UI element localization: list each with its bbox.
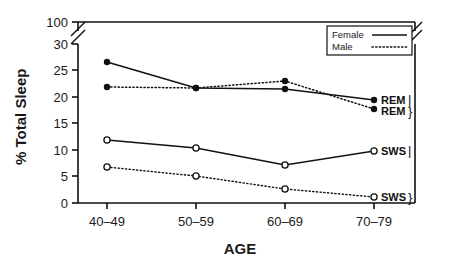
y-tick-label-5: 5 [61,169,68,184]
x-axis-title: AGE [224,240,257,257]
y-axis-title: % Total Sleep [12,69,29,165]
annotation-sws-male: SWS [381,191,406,203]
y-axis-ticks [72,22,78,203]
chart-canvas: 100 30 25 20 15 10 5 0 40–49 50–59 60–69… [0,0,450,272]
chart-legend[interactable]: Female Male [327,26,412,55]
legend-label-female: Female [332,29,364,40]
x-tick-label-60-69: 60–69 [267,214,303,229]
annotation-rem-male: REM [381,105,405,117]
y-tick-label-20: 20 [54,90,68,105]
y-tick-label-100: 100 [46,15,68,30]
annotation-sws-female: SWS [381,145,406,157]
y-tick-label-10: 10 [54,143,68,158]
x-tick-label-50-59: 50–59 [178,214,214,229]
y-tick-label-25: 25 [54,63,68,78]
series-male-sws [104,164,377,200]
x-tick-label-70-79: 70–79 [356,214,392,229]
annotation-sws-female-brace: | [408,143,411,158]
legend-label-male: Male [332,41,353,52]
y-tick-label-15: 15 [54,116,68,131]
chart-figure: 100 30 25 20 15 10 5 0 40–49 50–59 60–69… [0,0,450,272]
annotation-rem-male-brace: } [408,104,413,119]
series-female-sws [104,137,377,168]
y-tick-label-30: 30 [54,37,68,52]
x-tick-label-40-49: 40–49 [89,214,125,229]
x-axis-ticks [107,203,374,209]
y-tick-label-0: 0 [61,196,68,211]
series-female-rem [104,59,377,103]
annotation-sws-male-brace: } [408,190,413,205]
